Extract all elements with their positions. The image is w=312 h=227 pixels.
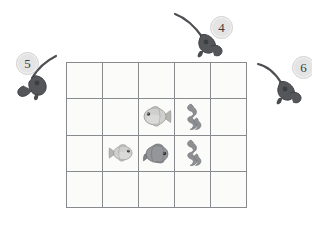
seaweed-icon xyxy=(181,139,205,167)
grid-cell[interactable] xyxy=(139,63,174,98)
marker-badge: 5 xyxy=(16,52,39,75)
grid-cell[interactable] xyxy=(139,136,174,171)
grid-cell[interactable] xyxy=(67,172,102,207)
marker-badge: 6 xyxy=(292,56,312,79)
grid-cell[interactable] xyxy=(67,136,102,171)
fishing-rod-marker-4[interactable]: 4 xyxy=(170,8,234,64)
grid-cell[interactable] xyxy=(139,172,174,207)
grid-cell[interactable] xyxy=(67,63,102,98)
marker-badge: 4 xyxy=(210,16,233,39)
grid-cell[interactable] xyxy=(103,172,138,207)
fish-icon xyxy=(142,105,172,128)
grid-cell[interactable] xyxy=(67,99,102,134)
grid-cell[interactable] xyxy=(211,172,246,207)
fishing-rod-marker-6[interactable]: 6 xyxy=(256,56,312,112)
grid-cell[interactable] xyxy=(103,99,138,134)
grid-cell[interactable] xyxy=(175,136,210,171)
marker-number: 6 xyxy=(300,61,307,74)
seaweed-icon xyxy=(181,103,205,131)
fishing-grid-scene: 4 5 xyxy=(0,0,312,227)
grid-cell[interactable] xyxy=(211,99,246,134)
fish-icon xyxy=(142,141,172,165)
grid-cell[interactable] xyxy=(211,63,246,98)
puzzle-grid xyxy=(66,62,247,208)
grid-cell[interactable] xyxy=(175,172,210,207)
grid-cell[interactable] xyxy=(175,63,210,98)
grid-cell[interactable] xyxy=(211,136,246,171)
marker-number: 4 xyxy=(218,21,225,34)
grid-cell[interactable] xyxy=(103,136,138,171)
marker-number: 5 xyxy=(24,57,31,70)
grid-cell[interactable] xyxy=(103,63,138,98)
grid-cell[interactable] xyxy=(139,99,174,134)
fishing-rod-marker-5[interactable]: 5 xyxy=(8,52,72,108)
fish-icon xyxy=(108,143,134,163)
grid-cell[interactable] xyxy=(175,99,210,134)
